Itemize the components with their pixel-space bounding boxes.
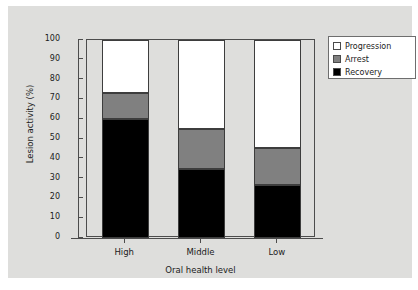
y-tick-label: 90 — [50, 55, 60, 63]
x-tick-mark — [124, 238, 125, 243]
chart-panel: Lesion activity (%) 10090807060504030201… — [8, 6, 412, 278]
y-tick-mark — [78, 197, 83, 198]
legend-item-recovery[interactable]: Recovery — [333, 66, 411, 78]
y-tick-mark — [78, 39, 83, 40]
y-axis-title: Lesion activity (%) — [25, 59, 35, 189]
legend-swatch-arrest-icon — [333, 55, 341, 63]
x-tick-label-middle: Middle — [166, 247, 236, 257]
bar-segment-progression[interactable] — [254, 40, 301, 148]
y-tick-mark — [78, 58, 83, 59]
y-tick-mark — [78, 177, 83, 178]
plot-area — [86, 39, 315, 237]
legend-item-arrest[interactable]: Arrest — [333, 53, 411, 65]
bar-segment-recovery[interactable] — [102, 119, 149, 238]
y-tick-label: 70 — [50, 94, 60, 102]
bar-segment-arrest[interactable] — [102, 93, 149, 119]
x-axis-title: Oral health level — [86, 265, 315, 275]
bar-stack[interactable] — [254, 40, 301, 238]
y-tick-label: 80 — [50, 75, 60, 83]
y-tick-label: 100 — [45, 35, 60, 43]
x-tick-label-high: High — [89, 247, 159, 257]
legend-item-progression[interactable]: Progression — [333, 40, 411, 52]
x-axis-line — [71, 238, 323, 239]
y-tick-label: 50 — [50, 134, 60, 142]
y-tick-mark — [78, 217, 83, 218]
bar-segment-progression[interactable] — [178, 40, 225, 129]
x-tick-label-low: Low — [242, 247, 312, 257]
legend-label: Progression — [345, 42, 391, 51]
bar-segment-progression[interactable] — [102, 40, 149, 93]
bar-segment-recovery[interactable] — [254, 185, 301, 238]
y-tick-label: 30 — [50, 174, 60, 182]
x-tick-mark — [200, 238, 201, 243]
bar-segment-arrest[interactable] — [254, 148, 301, 185]
y-tick-label: 0 — [55, 233, 60, 241]
legend-swatch-progression-icon — [333, 42, 341, 50]
y-tick-label: 20 — [50, 193, 60, 201]
bar-stack[interactable] — [102, 40, 149, 238]
chart-legend: ProgressionArrestRecovery — [328, 36, 416, 79]
y-tick-mark — [78, 157, 83, 158]
legend-label: Recovery — [345, 68, 382, 77]
legend-label: Arrest — [345, 55, 369, 64]
y-tick-mark — [78, 138, 83, 139]
x-tick-mark — [276, 238, 277, 243]
figure-canvas: Lesion activity (%) 10090807060504030201… — [0, 0, 418, 290]
y-tick-label: 10 — [50, 213, 60, 221]
y-tick-mark — [78, 78, 83, 79]
y-tick-label: 40 — [50, 154, 60, 162]
y-tick-mark — [78, 98, 83, 99]
y-axis-line — [78, 39, 79, 238]
bar-stack[interactable] — [178, 40, 225, 238]
bar-segment-arrest[interactable] — [178, 129, 225, 169]
bar-segment-recovery[interactable] — [178, 169, 225, 238]
y-tick-mark — [78, 118, 83, 119]
legend-swatch-recovery-icon — [333, 68, 341, 76]
y-tick-label: 60 — [50, 114, 60, 122]
